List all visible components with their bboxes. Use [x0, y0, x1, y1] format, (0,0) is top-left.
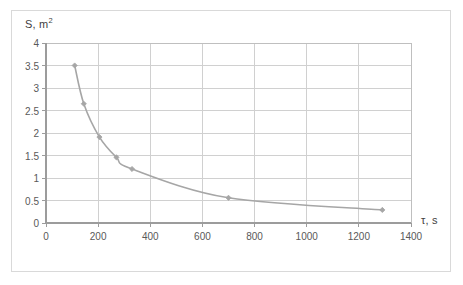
y-tick-label: 2.5 [13, 105, 39, 116]
y-tick-label: 3 [13, 83, 39, 94]
y-tick-label: 0.5 [13, 195, 39, 206]
y-tick-label: 2 [13, 128, 39, 139]
x-tick-label: 1000 [287, 231, 327, 242]
data-series-layer [72, 63, 385, 213]
x-tick-label: 1400 [391, 231, 431, 242]
chart-figure: S, m2 τ, s 00.511.522.533.54 02004006008… [11, 10, 451, 272]
series-line [75, 66, 383, 210]
x-tick-label: 1200 [339, 231, 379, 242]
y-tick-label: 1 [13, 173, 39, 184]
x-tick-label: 600 [182, 231, 222, 242]
y-tick-label: 1.5 [13, 150, 39, 161]
y-tick-label: 3.5 [13, 60, 39, 71]
data-point-marker [226, 195, 231, 200]
y-tick-label: 0 [13, 218, 39, 229]
data-point-marker [380, 207, 385, 212]
data-point-marker [81, 101, 86, 106]
x-tick-label: 0 [26, 231, 66, 242]
x-tick-label: 400 [130, 231, 170, 242]
data-point-marker [129, 166, 134, 171]
x-tick-label: 800 [235, 231, 275, 242]
data-point-marker [72, 63, 77, 68]
y-tick-label: 4 [13, 38, 39, 49]
x-tick-label: 200 [78, 231, 118, 242]
